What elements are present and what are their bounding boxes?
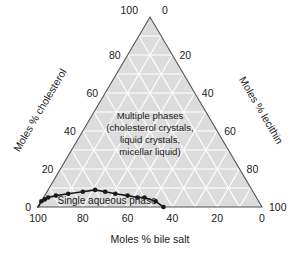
- ternary-diagram-svg: 100 0 100806040200 020406080 20406080100…: [0, 0, 303, 255]
- axis-tick-label: 100: [269, 201, 287, 213]
- axis-tick-label: 40: [202, 87, 214, 99]
- axis-tick-label: 60: [224, 125, 236, 137]
- multiple-phases-line-2: (cholesterol crystals,: [106, 122, 193, 133]
- apex-label-right: 0: [162, 4, 168, 16]
- ternary-phase-diagram-figure: 100 0 100806040200 020406080 20406080100…: [0, 0, 303, 255]
- data-point-marker: [93, 188, 98, 193]
- axis-tick-label: 80: [109, 49, 121, 61]
- data-point-marker: [81, 190, 86, 195]
- apex-label-left: 100: [120, 4, 138, 16]
- axis-tick-label: 80: [247, 163, 259, 175]
- single-aqueous-phase-annotation: Single aqueous phase: [58, 195, 157, 206]
- axis-tick-label: 60: [87, 87, 99, 99]
- axis-tick-label: 20: [211, 212, 223, 224]
- multiple-phases-line-3: liquid crystals,: [120, 134, 180, 145]
- bottom-axis-title: Moles % bile salt: [111, 233, 190, 245]
- axis-tick-label: 100: [29, 212, 47, 224]
- axis-tick-label: 40: [64, 125, 76, 137]
- multiple-phases-line-4: micellar liquid): [119, 146, 180, 157]
- data-point-marker: [46, 195, 51, 200]
- data-point-marker: [161, 205, 166, 210]
- axis-tick-label: 40: [167, 212, 179, 224]
- axis-tick-label: 20: [179, 49, 191, 61]
- axis-tick-label: 0: [259, 212, 265, 224]
- axis-tick-label: 60: [122, 212, 134, 224]
- axis-tick-label: 20: [42, 163, 54, 175]
- multiple-phases-line-1: Multiple phases: [117, 110, 184, 121]
- axis-tick-label: 80: [77, 212, 89, 224]
- axis-tick-label: 0: [25, 201, 31, 213]
- data-point-marker: [103, 190, 108, 195]
